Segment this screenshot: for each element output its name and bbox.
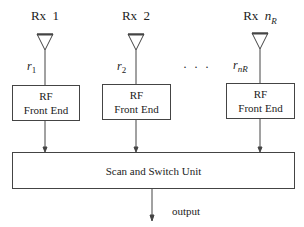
rf-front-end-n: RF Front End [226, 83, 295, 119]
front-end-label: Front End [114, 102, 158, 116]
rf-label: RF [254, 87, 267, 101]
receiver-label-2: Rx 2 [96, 8, 176, 24]
receiver-label-n: Rx nR [220, 8, 300, 26]
antenna-icon [37, 34, 53, 85]
output-label: output [172, 205, 200, 217]
front-end-label: Front End [238, 101, 282, 115]
rf-front-end-2: RF Front End [102, 84, 171, 120]
signal-subscript: 2 [122, 65, 127, 75]
rf-label: RF [39, 89, 52, 103]
signal-subscript: nR [238, 64, 248, 74]
signal-label-n: rnR [233, 58, 248, 74]
receiver-label-1: Rx 1 [5, 8, 85, 24]
front-end-label: Front End [24, 103, 68, 117]
ellipsis: · · · [183, 60, 211, 75]
signal-subscript: 1 [32, 65, 37, 75]
rf-label: RF [130, 88, 143, 102]
scan-switch-label: Scan and Switch Unit [106, 164, 202, 178]
receiver-label-sub: R [271, 16, 277, 26]
signal-label-1: r1 [27, 59, 36, 75]
rf-front-end-1: RF Front End [12, 85, 80, 121]
antenna-icon [252, 33, 268, 83]
scan-and-switch-unit: Scan and Switch Unit [12, 152, 295, 189]
signal-label-2: r2 [117, 59, 126, 75]
receiver-label-prefix: Rx [243, 8, 265, 23]
antenna-icon [128, 34, 144, 84]
